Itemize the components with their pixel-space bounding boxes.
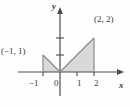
- graph-figure: (−1, 1) (2, 2) y x −1 0 1 2: [0, 0, 130, 107]
- y-axis-arrowhead: [57, 7, 63, 14]
- x-tick-label-1: 1: [77, 79, 82, 88]
- point-label-left-vertex: (−1, 1): [1, 47, 26, 56]
- point-label-right-vertex: (2, 2): [94, 15, 114, 24]
- x-tick-label-0: 0: [54, 79, 59, 88]
- y-axis-label: y: [52, 2, 56, 11]
- x-axis-arrowhead: [117, 69, 124, 75]
- x-axis-label: x: [119, 81, 124, 90]
- x-tick-label-2: 2: [94, 79, 99, 88]
- x-tick-label-neg1: −1: [29, 79, 39, 88]
